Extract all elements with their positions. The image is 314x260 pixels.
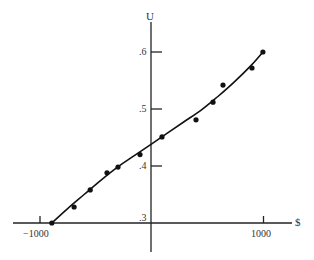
y-tick-label-3: .3 (139, 213, 147, 223)
data-point (193, 117, 198, 122)
x-tick-label-neg-1000: −1000 (23, 229, 49, 239)
x-tick-label-1000: 1000 (251, 229, 271, 239)
x-axis-label: $ (295, 217, 301, 228)
axes (13, 22, 292, 252)
data-point (210, 100, 215, 105)
data-point (115, 165, 120, 170)
data-point (159, 134, 164, 139)
data-point (137, 152, 142, 157)
data-point (220, 83, 225, 88)
utility-chart (0, 0, 314, 260)
data-point (104, 170, 109, 175)
y-tick-label-6: .6 (139, 47, 147, 57)
fitted-curve (52, 52, 263, 223)
y-axis-label: U (146, 11, 154, 22)
data-point (49, 220, 54, 225)
data-point (260, 49, 265, 54)
data-point (88, 187, 93, 192)
y-tick-label-4: .4 (139, 161, 147, 171)
data-point (249, 65, 254, 70)
data-points (49, 49, 265, 225)
data-point (72, 204, 77, 209)
y-tick-label-5: .5 (139, 104, 147, 114)
